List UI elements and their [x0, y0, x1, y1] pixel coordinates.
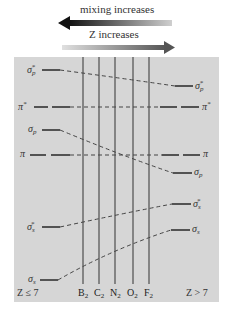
label-right-pi: π — [203, 149, 208, 159]
label-left-sigma-s: σs — [28, 274, 36, 286]
molecule-label-b2: B2 — [78, 288, 88, 300]
label-left-sigma-p-star: σp* — [27, 64, 35, 77]
label-right-sigma-s-star: σs* — [193, 198, 200, 211]
label-right-sigma-s: σs — [192, 224, 200, 236]
label-right-sigma-p: σp — [194, 167, 202, 179]
molecule-label-o2: O2 — [127, 288, 138, 300]
label-left-sigma-p: σp — [28, 124, 36, 136]
label-right-sigma-p-star: σp* — [195, 80, 203, 93]
label-left-pi-star: π* — [18, 101, 27, 112]
molecule-label-f2: F2 — [144, 288, 153, 300]
label-left-pi: π — [20, 149, 25, 159]
right-caption-z-gt-7: Z > 7 — [186, 287, 208, 298]
label-left-sigma-s-star: σs* — [27, 221, 34, 234]
mo-diagram-panel — [0, 0, 228, 310]
left-caption-z-le-7: Z ≤ 7 — [17, 287, 39, 298]
label-right-pi-star: π* — [202, 101, 211, 112]
molecule-label-n2: N2 — [110, 288, 121, 300]
molecule-label-c2: C2 — [94, 288, 104, 300]
